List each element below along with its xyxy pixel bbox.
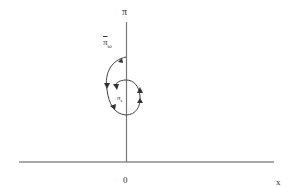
arrow-icon [137,98,143,103]
arrow-icon [104,83,110,89]
omega-subscript: ω [108,42,112,49]
origin-label: 0 [123,176,128,185]
pi-s-label: πs [117,95,122,104]
pi-axis-label: π [122,7,127,17]
arrow-icon [113,84,119,90]
x-axis-label: x [276,178,281,187]
phase-diagram [0,0,293,187]
pi-omega-label: πω [103,38,112,49]
s-subscript: s [121,98,123,103]
